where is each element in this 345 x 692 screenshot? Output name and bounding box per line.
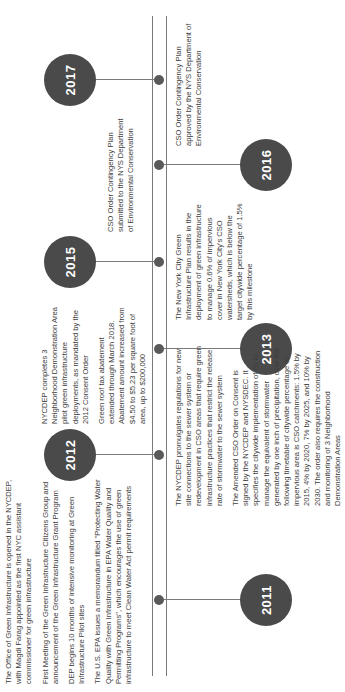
year-2012: 2012: [44, 429, 96, 481]
year-2017: 2017: [44, 54, 96, 106]
year-2011: 2011: [240, 574, 292, 626]
connector-2016: [160, 164, 252, 165]
event-text: CSO Order Contingency Plan submitted to …: [106, 117, 137, 232]
connector-2011: [160, 599, 252, 600]
events-2017: CSO Order Contingency Plan approved by t…: [174, 16, 211, 146]
dot-2015: [154, 257, 164, 267]
timeline-rule-bottom: [166, 16, 167, 676]
event-text: First Meeting of the Green Infrastructur…: [41, 479, 61, 684]
event-text: The NYCDEP promulgates regulations for n…: [174, 346, 225, 506]
event-text: The U.S. EPA issues a memorandum titled …: [93, 479, 134, 684]
dot-2016: [154, 160, 164, 170]
dot-2017: [154, 75, 164, 85]
events-2016-below: The New York City Green Infrastructure P…: [174, 202, 262, 320]
event-text: The New York City Green Infrastructure P…: [174, 202, 256, 320]
event-text: The Office of Green Infrastructure is op…: [4, 479, 35, 684]
events-2015: NYCDEP completes 3 Neighborhood Demonstr…: [40, 306, 154, 424]
event-text: DEP begins 10 months of intensive monito…: [67, 479, 87, 684]
events-2011: The Office of Green Infrastructure is op…: [4, 479, 140, 684]
event-text: Green roof tax abatement extended throug…: [97, 306, 148, 424]
year-2016: 2016: [240, 139, 292, 191]
dot-2013: [154, 344, 164, 354]
year-2015: 2015: [44, 236, 96, 288]
event-text: NYCDEP completes 3 Neighborhood Demonstr…: [40, 306, 91, 424]
event-text: CSO Order Contingency Plan approved by t…: [174, 16, 205, 146]
dot-2012: [154, 450, 164, 460]
event-text: The Amended CSO Order on Consent is sign…: [231, 346, 343, 506]
events-2016: CSO Order Contingency Plan submitted to …: [106, 117, 143, 232]
dot-2011: [154, 595, 164, 605]
events-2012: The NYCDEP promulgates regulations for n…: [174, 346, 345, 506]
